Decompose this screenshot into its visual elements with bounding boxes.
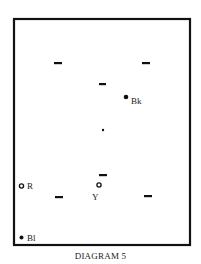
ball-black — [124, 95, 129, 100]
dash-marker-lower-center — [99, 174, 107, 176]
dash-marker-lower-right — [144, 195, 152, 197]
ball-label-blue: Bl — [27, 233, 36, 243]
ball-blue — [20, 236, 24, 240]
diagram-caption: DIAGRAM 5 — [75, 251, 127, 261]
ball-label-red: R — [27, 181, 33, 191]
dash-marker-top-right — [142, 62, 150, 64]
dash-marker-top-left — [54, 62, 62, 64]
ball-red — [19, 184, 23, 188]
center-spot — [102, 129, 104, 131]
dash-marker-upper-center — [99, 83, 106, 85]
diagram-figure: Bk R Y Bl DIAGRAM 5 — [0, 0, 201, 264]
dash-marker-lower-left — [55, 196, 63, 198]
ball-label-black: Bk — [131, 96, 142, 106]
ball-yellow — [97, 183, 101, 187]
table-frame — [14, 19, 190, 245]
ball-label-yellow: Y — [92, 192, 99, 202]
